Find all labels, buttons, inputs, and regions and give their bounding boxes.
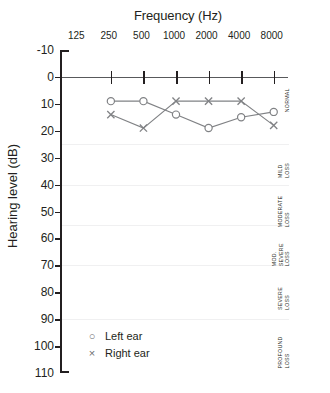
severity-label: MOD.SEVERELOSS — [271, 243, 291, 266]
x-tick-mark — [241, 71, 243, 84]
y-tick-label: 100 — [34, 339, 54, 353]
y-tick-mark — [55, 238, 62, 240]
y-tick-mark — [55, 265, 62, 267]
x-marker-icon: × — [84, 347, 100, 359]
y-tick-label: 90 — [41, 312, 54, 326]
y-tick-mark — [55, 77, 62, 79]
zero-db-axis — [62, 77, 288, 79]
legend-item: ○Left ear — [84, 327, 150, 344]
severity-label: PROFOUNDLOSS — [277, 337, 290, 369]
circle-marker-icon: ○ — [84, 330, 100, 342]
severity-label-line: LOSS — [284, 337, 291, 369]
data-point-circle-marker — [270, 108, 277, 115]
severity-label-line: LOSS — [284, 196, 291, 227]
data-point-circle-marker — [238, 114, 245, 121]
audiogram-chart: Frequency (Hz) Hearing level (dB) -10010… — [0, 0, 330, 393]
severity-band-separator — [62, 185, 289, 186]
y-tick-mark — [55, 346, 62, 348]
x-tick-label: 500 — [133, 30, 150, 41]
data-point-x-marker — [107, 111, 114, 118]
y-tick-mark — [55, 131, 62, 133]
severity-band-labels: NORMALMILDLOSSMODERATELOSSMOD.SEVERELOSS… — [290, 0, 330, 393]
y-tick-mark — [55, 158, 62, 160]
severity-band-separator — [62, 225, 289, 226]
y-tick-label: 110 — [35, 366, 54, 380]
x-tick-mark — [143, 71, 145, 84]
data-point-circle-marker — [140, 98, 147, 105]
severity-label: MODERATELOSS — [277, 196, 290, 227]
x-tick-label: 8000 — [261, 30, 283, 41]
severity-label-line: NORMAL — [284, 88, 291, 112]
severity-label-line: MILD — [277, 163, 284, 178]
x-tick-label: 250 — [101, 30, 118, 41]
y-tick-mark — [55, 319, 62, 321]
severity-label: NORMAL — [284, 88, 291, 112]
x-tick-mark — [176, 71, 178, 84]
x-tick-label: 2000 — [195, 30, 217, 41]
x-tick-mark — [274, 71, 276, 84]
x-tick-mark — [111, 71, 113, 84]
y-tick-mark — [55, 104, 62, 106]
x-tick-label: 4000 — [228, 30, 250, 41]
severity-label: SEVERELOSS — [277, 287, 290, 310]
severity-label-line: LOSS — [284, 287, 291, 310]
y-tick-label: 60 — [41, 231, 54, 245]
y-tick-mark — [55, 212, 62, 214]
severity-label-line: PROFOUND — [277, 337, 284, 369]
y-tick-label: 70 — [41, 258, 54, 272]
chart-legend: ○Left ear×Right ear — [84, 327, 150, 361]
y-tick-label: 10 — [41, 97, 54, 111]
x-tick-mark — [209, 71, 211, 84]
y-tick-label: 20 — [41, 124, 54, 138]
data-point-circle-marker — [205, 124, 212, 131]
severity-label: MILDLOSS — [277, 163, 290, 178]
y-tick-label: 0 — [47, 70, 54, 84]
severity-band-separator — [62, 319, 289, 320]
severity-band-separator — [62, 144, 289, 145]
data-point-x-marker — [140, 124, 147, 131]
legend-label: Right ear — [105, 347, 150, 359]
series-line-circle — [111, 101, 274, 128]
severity-band-separator — [62, 265, 289, 266]
data-point-x-marker — [270, 122, 277, 129]
severity-label-line: LOSS — [284, 243, 291, 266]
y-tick-label: 40 — [41, 178, 54, 192]
severity-label-line: LOSS — [284, 163, 291, 178]
legend-label: Left ear — [105, 330, 142, 342]
severity-label-line: MODERATE — [277, 196, 284, 227]
data-point-circle-marker — [107, 98, 114, 105]
legend-item: ×Right ear — [84, 344, 150, 361]
series-line-x — [111, 101, 274, 128]
data-series-layer — [62, 50, 290, 373]
x-axis-tick-labels: 1252505001000200040008000 — [0, 0, 330, 50]
severity-label-line: SEVERE — [277, 287, 284, 310]
x-tick-label: 125 — [68, 30, 85, 41]
y-tick-mark — [55, 185, 62, 187]
x-tick-label: 1000 — [163, 30, 185, 41]
y-tick-label: 80 — [41, 285, 54, 299]
plot-area — [60, 50, 288, 373]
y-tick-label: 50 — [41, 205, 54, 219]
data-point-circle-marker — [172, 111, 179, 118]
y-tick-label: 30 — [41, 151, 54, 165]
y-tick-mark — [55, 292, 62, 294]
y-axis-tick-labels: -100102030405060708090100110 — [0, 0, 58, 393]
